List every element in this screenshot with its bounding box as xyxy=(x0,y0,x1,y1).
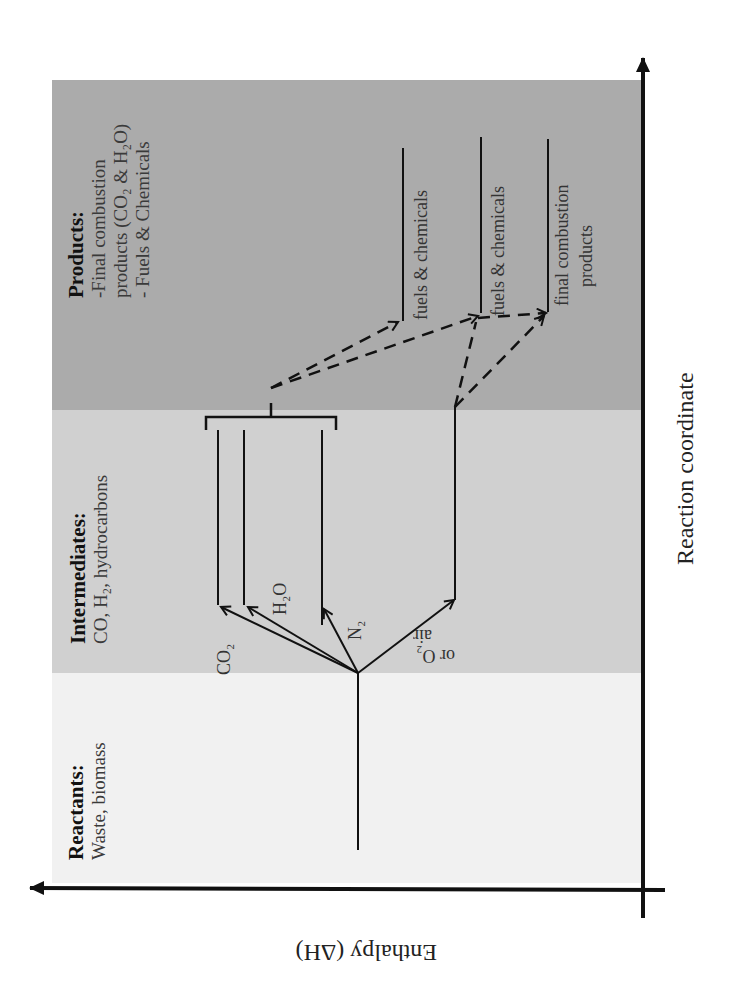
h2o-label: H₂O xyxy=(270,583,291,615)
products-label-group: Products: -Final combustion products (CO… xyxy=(64,124,154,298)
co2-branch-arrow xyxy=(221,607,358,673)
reaction-coordinate-label: Reaction coordinate xyxy=(672,372,699,565)
intermediates-line-1: CO, H₂, hydrocarbons xyxy=(90,475,112,644)
products-line-2: products (CO₂ & H₂O) xyxy=(110,124,132,298)
intermediates-title: Intermediates: xyxy=(66,475,90,644)
products-line-3: - Fuels & Chemicals xyxy=(132,124,154,298)
final-combustion-label-1: final combustion xyxy=(552,185,573,306)
or-o2-label: or O₂ xyxy=(416,645,455,666)
products-title: Products: xyxy=(64,124,88,298)
air-label: air xyxy=(413,625,432,646)
enthalpy-diagram: Products: -Final combustion products (CO… xyxy=(0,0,733,1008)
fuels-label-2: fuels & chemicals xyxy=(488,186,509,316)
intermediates-label-group: Intermediates: CO, H₂, hydrocarbons xyxy=(66,475,112,644)
intermediates-bracket xyxy=(206,403,336,430)
final-combustion-label-2: products xyxy=(576,225,597,287)
fuels-label-1: fuels & chemicals xyxy=(411,190,432,320)
reactants-line-1: Waste, biomass xyxy=(88,742,110,860)
co2-label: CO₂ xyxy=(214,644,235,675)
dashed-paths xyxy=(271,313,546,407)
enthalpy-label: Enthalpy (ΔH) xyxy=(296,939,437,966)
reactants-label-group: Reactants: Waste, biomass xyxy=(64,742,110,860)
enthalpy-axis xyxy=(30,888,665,890)
n2-label: N₂ xyxy=(345,621,366,640)
products-line-1: -Final combustion xyxy=(88,124,110,298)
reactants-title: Reactants: xyxy=(64,742,88,860)
